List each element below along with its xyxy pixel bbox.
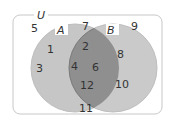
element-intersection: 4 <box>71 60 78 73</box>
venn-diagram: U A B 5 7 9 11 1 3 8 10 2 4 6 12 <box>0 0 170 123</box>
element-a-only: 3 <box>36 62 43 75</box>
element-outside: 11 <box>79 102 93 115</box>
set-a-label: A <box>56 24 65 37</box>
element-intersection: 2 <box>82 40 89 53</box>
element-outside: 9 <box>131 20 138 33</box>
element-outside: 5 <box>31 22 38 35</box>
element-b-only: 8 <box>117 48 124 61</box>
element-intersection: 12 <box>80 79 94 92</box>
universe-label: U <box>37 9 45 22</box>
element-intersection: 6 <box>92 61 99 74</box>
set-b-label: B <box>107 24 115 37</box>
element-a-only: 1 <box>47 43 54 56</box>
element-outside: 7 <box>82 20 89 33</box>
element-b-only: 10 <box>115 78 129 91</box>
